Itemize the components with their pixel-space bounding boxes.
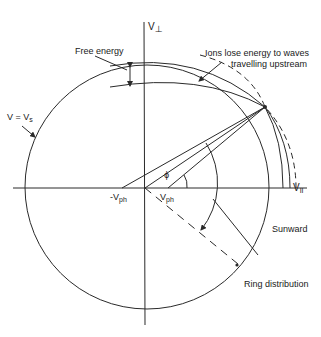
line-from-neg-vph bbox=[122, 107, 265, 188]
v-perp-axis bbox=[144, 22, 145, 325]
v-perp-label: V⊥ bbox=[148, 22, 163, 32]
line-from-origin bbox=[145, 107, 265, 188]
sunward-dashed-line bbox=[145, 188, 238, 264]
phi-arc bbox=[184, 175, 187, 188]
neg-vph-label: -Vph bbox=[110, 193, 127, 202]
ring-distribution-label: Ring distribution bbox=[244, 280, 309, 289]
v-par-label: VII bbox=[293, 183, 304, 193]
phi-label: ϕ bbox=[164, 172, 169, 180]
ring-distribution-line bbox=[213, 199, 258, 255]
free-energy-label: Free energy bbox=[75, 47, 124, 56]
ring-point bbox=[235, 263, 238, 266]
ions-leader bbox=[199, 62, 222, 81]
sunward-label: Sunward bbox=[272, 225, 308, 234]
rotation-arrow bbox=[201, 143, 218, 230]
free-energy-leader bbox=[95, 56, 127, 70]
ions-lose-energy-label: Ions lose energy to waves bbox=[205, 49, 309, 58]
vph-label: Vph bbox=[160, 193, 174, 202]
v-equals-vs-label: V = Vs bbox=[7, 113, 33, 122]
travelling-upstream-label: travelling upstream bbox=[231, 60, 307, 69]
line-from-vph bbox=[168, 107, 265, 188]
vs-leader bbox=[22, 126, 35, 137]
tangency-point bbox=[263, 105, 267, 109]
shell-arc-outer bbox=[110, 62, 290, 188]
